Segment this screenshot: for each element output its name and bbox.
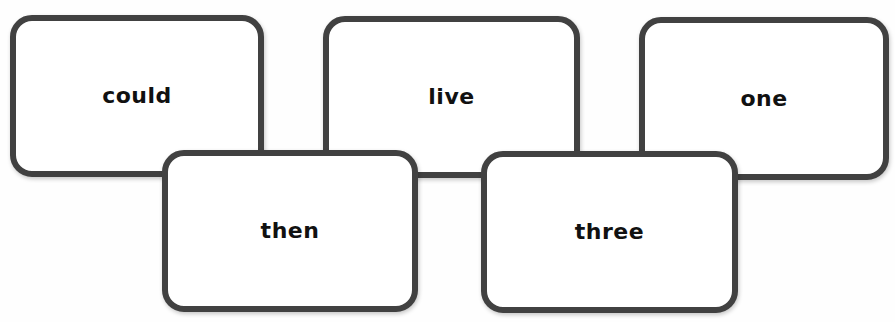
- word-card-then[interactable]: then: [162, 150, 418, 312]
- card-word: three: [575, 221, 644, 243]
- card-word: then: [261, 220, 320, 242]
- card-word: one: [740, 88, 787, 110]
- word-card-board: could live one then three: [0, 0, 895, 322]
- card-word: live: [428, 86, 474, 108]
- word-card-three[interactable]: three: [481, 151, 738, 313]
- card-word: could: [102, 85, 172, 107]
